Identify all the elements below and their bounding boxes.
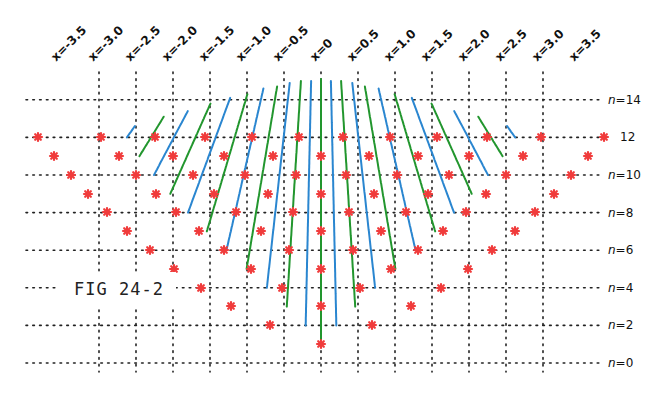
star-marker [247,265,255,273]
star-marker [445,171,453,179]
star-marker [483,133,491,141]
x-label: x=2.5 [492,27,530,65]
star-marker [152,190,160,198]
star-marker [227,302,235,310]
curve-k-11 [127,126,135,137]
star-marker [317,265,325,273]
star-marker [317,340,325,348]
star-marker [386,133,394,141]
star-marker [600,133,608,141]
star-marker [407,302,415,310]
curve-k-1 [306,81,311,325]
star-marker [339,133,347,141]
star-marker [317,190,325,198]
star-marker [349,246,357,254]
figure-canvas: x=-3.5x=-3.0x=-2.5x=-2.0x=-1.5x=-1.0x=-0… [0,0,658,393]
n-label: n=14 [608,93,641,107]
star-marker [402,208,410,216]
star-marker [197,284,205,292]
star-marker [356,284,364,292]
star-marker [439,227,447,235]
star-marker [464,265,472,273]
n-label: n=10 [608,168,641,182]
star-marker [414,152,422,160]
star-marker [465,152,473,160]
star-marker [295,133,303,141]
curve-k-6 [207,94,248,231]
star-marker [103,208,111,216]
curve-k6 [395,94,436,231]
curve-k8 [432,104,472,194]
star-marker [257,227,265,235]
n-label: n=6 [608,243,633,257]
star-marker [519,152,527,160]
star-marker [393,171,401,179]
star-marker [195,227,203,235]
x-label: x=3.5 [566,27,604,65]
star-marker [414,246,422,254]
star-marker [241,171,249,179]
star-marker [146,246,154,254]
x-label: x=-1.5 [196,23,237,64]
x-axis-labels: x=-3.5x=-3.0x=-2.5x=-2.0x=-1.5x=-1.0x=-0… [48,23,604,64]
x-label: x=0.5 [344,27,382,65]
star-marker [248,133,256,141]
star-marker [97,133,105,141]
n-label: n=0 [608,356,633,370]
curve-k1 [331,81,336,325]
star-marker [232,208,240,216]
star-marker [210,190,218,198]
x-label: x=-3.5 [48,23,89,64]
curve-k-3 [267,83,290,288]
star-marker [220,152,228,160]
star-marker [151,133,159,141]
star-marker [462,208,470,216]
star-marker [285,246,293,254]
star-marker [264,190,272,198]
star-marker [531,208,539,216]
x-label: x=3.0 [529,27,567,65]
x-label: x=-3.0 [85,23,126,64]
star-marker [584,152,592,160]
star-marker [172,208,180,216]
n-label: n=8 [608,206,633,220]
curve-k3 [352,83,375,288]
star-marker [292,171,300,179]
star-marker [424,190,432,198]
star-marker [278,284,286,292]
x-label: x=-2.0 [159,23,200,64]
n-label: n=4 [608,281,633,295]
star-marker [370,190,378,198]
star-marker [387,265,395,273]
star-marker [377,227,385,235]
star-marker [189,171,197,179]
star-marker [123,227,131,235]
x-label: x=1.5 [418,27,456,65]
x-label: x=-2.5 [122,23,163,64]
n-axis-labels: n=0n=2n=4n=6n=8n=1012n=14 [608,93,641,370]
star-marker [567,171,575,179]
star-marker [289,208,297,216]
star-marker [537,133,545,141]
star-marker [502,171,510,179]
star-marker [488,246,496,254]
curve-k-5 [227,89,264,251]
star-marker [317,302,325,310]
star-marker [170,265,178,273]
star-marker [345,208,353,216]
figure-label: FIG 24-2 [74,279,164,299]
star-marker [437,284,445,292]
star-marker [482,190,490,198]
x-label: x=1.0 [381,27,419,65]
star-marker [433,133,441,141]
star-marker [550,190,558,198]
star-marker [368,321,376,329]
n-label: n=2 [608,318,633,332]
star-marker [220,246,228,254]
star-marker [511,227,519,235]
star-marker [169,152,177,160]
curve-k-8 [170,104,210,194]
curve-k-2 [287,81,301,307]
star-marker [266,321,274,329]
dotted-grid [26,72,600,372]
